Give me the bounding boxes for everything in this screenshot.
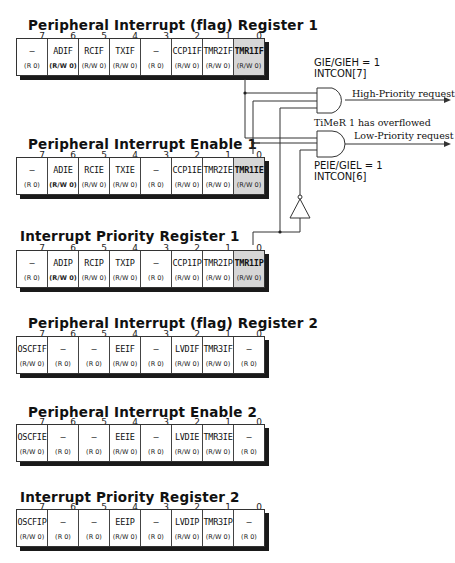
- wire-enable-to-high-and: [253, 101, 317, 143]
- arrow-low-icon: [444, 141, 451, 147]
- arrow-high-icon: [444, 97, 451, 103]
- wire-flag-to-low-and: [245, 93, 317, 138]
- inverter-bubble-icon: [298, 195, 302, 199]
- and-gate-low-icon: [317, 131, 345, 157]
- and-gate-high-icon: [317, 88, 341, 113]
- wire-inverter-to-low-and: [300, 150, 317, 197]
- wire-priority-to-inverter: [280, 218, 300, 232]
- inverter-gate-icon: [290, 199, 310, 218]
